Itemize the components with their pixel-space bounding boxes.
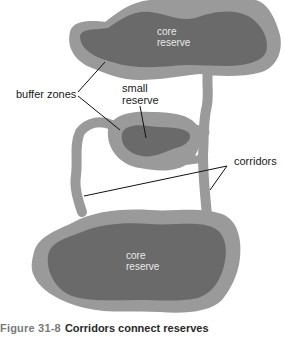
top-core-label: core reserve	[157, 26, 190, 48]
buffer-zones-label: buffer zones	[16, 88, 76, 100]
corridors-label: corridors	[234, 155, 277, 167]
top-core-label-line2: reserve	[157, 37, 190, 48]
small-reserve-label-line2: reserve	[122, 94, 159, 106]
bottom-core-label-line1: core	[126, 250, 159, 261]
right-corridor	[203, 70, 208, 215]
small-reserve-label-line1: small	[122, 82, 159, 94]
left-loop-corridor	[75, 122, 112, 212]
figure-number: Figure 31-8	[0, 322, 61, 334]
corridor-line-right	[210, 166, 227, 190]
bottom-core-label: core reserve	[126, 250, 159, 272]
top-core-label-line1: core	[157, 26, 190, 37]
bottom-core-label-line2: reserve	[126, 261, 159, 272]
small-reserve-label: small reserve	[122, 82, 159, 106]
reserve-corridor-diagram	[0, 0, 285, 340]
figure-caption: Figure 31-8Corridors connect reserves	[0, 322, 209, 334]
small-reserve	[108, 112, 200, 171]
figure-title: Corridors connect reserves	[65, 322, 209, 334]
